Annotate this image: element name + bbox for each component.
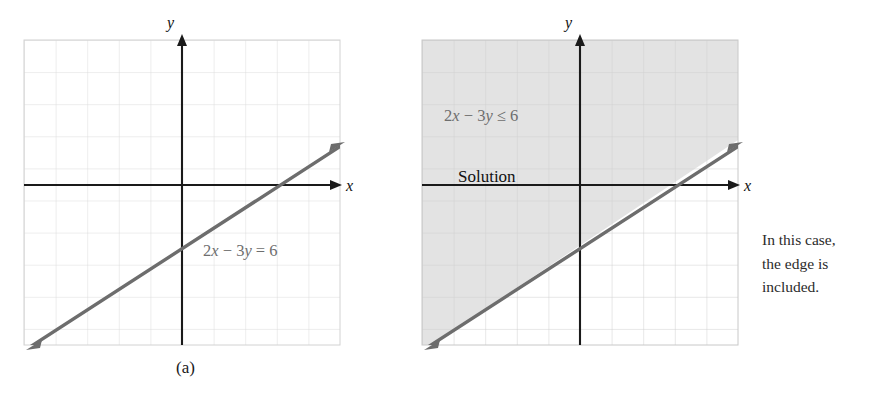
equation-label-a: 2x − 3y = 6 [203,241,278,260]
inequality-graph-figure: x y 2x − 3y = 6 (a) [0,0,877,398]
x-axis-label-a: x [345,177,353,194]
panel-a: x y 2x − 3y = 6 (a) [0,0,400,398]
x-axis-label-b: x [743,177,751,194]
panel-a-plot: x y 2x − 3y = 6 [0,0,400,398]
panel-b-plot: x y 2x − 3y ≤ 6 Solution [400,0,760,398]
panel-a-caption: (a) [176,358,195,378]
panel-b: x y 2x − 3y ≤ 6 Solution (b) [400,0,760,398]
y-axis-label-a: y [165,14,175,32]
note-line-3: included. [762,275,874,299]
inequality-label-b: 2x − 3y ≤ 6 [444,106,518,125]
note-line-2: the edge is [762,252,874,276]
y-axis-label-b: y [563,14,573,32]
solution-label-b: Solution [458,167,516,186]
note-line-1: In this case, [762,228,874,252]
edge-included-note: In this case, the edge is included. [762,228,874,299]
